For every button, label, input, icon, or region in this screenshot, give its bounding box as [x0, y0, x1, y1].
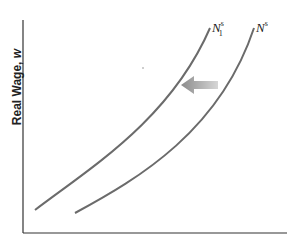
curve-label-ns: Ns: [256, 20, 268, 36]
curve-label-n1s: Ns1: [212, 20, 223, 38]
y-axis-label: Real Wage, w: [10, 32, 24, 142]
shift-left-arrow-icon: [181, 76, 218, 94]
labor-supply-diagram: [0, 0, 293, 240]
curve-ns: [75, 28, 254, 213]
curve-n1s: [35, 28, 210, 210]
